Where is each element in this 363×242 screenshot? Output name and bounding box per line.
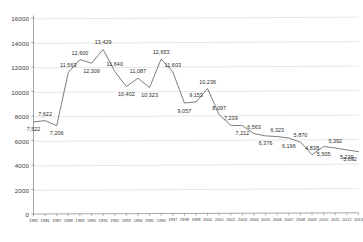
- data-point-label: 7,206: [50, 130, 64, 136]
- data-point-label: 12,600: [72, 50, 89, 56]
- x-axis-tick-label: 2004: [249, 217, 258, 222]
- y-axis-tick-label: 0: [0, 211, 29, 218]
- x-axis-tick-label: 1985: [29, 218, 38, 223]
- x-axis-tick-label: 2007: [284, 217, 293, 222]
- x-axis-tick-label: 2001: [215, 217, 224, 222]
- x-axis-tick-label: 1995: [145, 218, 154, 223]
- chart-axes: [34, 16, 359, 215]
- data-point-label: 8,097: [212, 105, 226, 111]
- y-axis-tick-label: 10000: [0, 88, 29, 95]
- data-point-label: 11,640: [107, 61, 123, 67]
- data-point-label: 7,212: [236, 130, 250, 136]
- data-point-label: 5,092: [343, 156, 357, 162]
- data-point-label: 5,870: [294, 132, 308, 138]
- x-axis-tick-label: 2005: [261, 217, 270, 222]
- data-point-label: 10,323: [141, 92, 158, 98]
- x-axis-tick-label: 2006: [273, 217, 282, 222]
- data-point-label: 7,239: [224, 115, 238, 121]
- y-axis-tick-label: 2000: [0, 186, 29, 193]
- data-point-label: 5,505: [317, 151, 331, 157]
- data-series-line: [34, 49, 359, 154]
- y-axis-tick-label: 16000: [0, 15, 29, 22]
- data-point-label: 9,057: [178, 108, 192, 114]
- data-point-label: 5,392: [328, 138, 342, 144]
- x-axis-tick-label: 2010: [319, 217, 328, 222]
- data-point-label: 11,087: [130, 68, 146, 74]
- y-axis-tick-label: 8000: [0, 113, 29, 120]
- x-axis-tick-label: 1990: [87, 218, 96, 223]
- data-point-label: 7,622: [38, 111, 52, 117]
- x-axis-tick-label: 1987: [52, 218, 61, 223]
- y-axis-tick-label: 14000: [0, 39, 29, 46]
- x-axis-tick-label: 1994: [133, 218, 142, 223]
- data-point-label: 7,522: [27, 126, 41, 132]
- x-axis-tick-label: 2013: [354, 217, 363, 222]
- x-axis-tick-label: 1997: [168, 217, 177, 222]
- y-axis-tick-label: 4000: [0, 162, 29, 169]
- x-axis-tick-label: 1986: [41, 218, 50, 223]
- x-axis-tick-label: 2008: [296, 217, 305, 222]
- y-axis-tick-label: 6000: [0, 137, 29, 144]
- x-axis-tick-label: 1993: [122, 218, 131, 223]
- line-chart: 0200040006000800010000120001400016000 19…: [0, 0, 363, 242]
- data-point-label: 6,563: [247, 124, 261, 130]
- data-point-label: 11,563: [60, 62, 76, 68]
- x-axis-tick-label: 1999: [191, 217, 200, 222]
- data-point-label: 12,309: [83, 68, 100, 74]
- x-axis-tick-label: 1996: [157, 218, 166, 223]
- data-point-label: 11,603: [165, 62, 181, 68]
- x-axis-tick-label: 1992: [110, 218, 119, 223]
- x-axis-tick-label: 1989: [75, 218, 84, 223]
- x-axis-tick-label: 2011: [331, 217, 340, 222]
- x-axis-tick-label: 2012: [342, 217, 351, 222]
- data-point-label: 12,653: [153, 49, 170, 55]
- x-axis-tick-label: 2003: [238, 217, 247, 222]
- x-axis-tick-label: 1988: [64, 218, 73, 223]
- data-point-label: 9,153: [189, 92, 203, 98]
- data-point-label: 6,376: [259, 140, 273, 146]
- gridlines: [34, 17, 359, 190]
- data-point-label: 13,429: [95, 39, 112, 45]
- chart-plot-area: [0, 0, 363, 242]
- data-point-label: 4,838: [305, 145, 319, 151]
- x-axis-tick-label: 2000: [203, 217, 212, 222]
- x-axis-tick-label: 2002: [226, 217, 235, 222]
- x-axis-tick-label: 1998: [180, 217, 189, 222]
- x-axis-tick-label: 2009: [308, 217, 317, 222]
- y-axis-tick-label: 12000: [0, 64, 29, 71]
- data-point-label: 10,402: [118, 91, 135, 97]
- data-point-label: 6,196: [282, 143, 296, 149]
- x-axis-tick-label: 1991: [99, 218, 108, 223]
- data-point-label: 6,323: [270, 127, 284, 133]
- data-point-label: 10,236: [199, 79, 216, 85]
